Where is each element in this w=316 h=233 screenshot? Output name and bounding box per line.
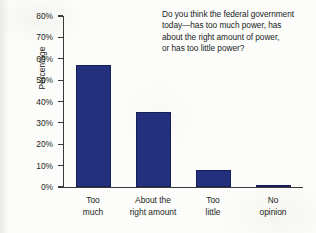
y-axis-tick-label: 70% xyxy=(5,32,53,42)
y-axis-tick: 20% xyxy=(3,139,63,149)
y-axis-tick-mark xyxy=(58,15,64,16)
y-axis-tick: 50% xyxy=(3,75,63,85)
y-axis-tick: 40% xyxy=(3,97,63,107)
y-axis-tick-label: 40% xyxy=(5,97,53,107)
category-label: About theright amount xyxy=(123,195,183,218)
bar xyxy=(136,112,171,187)
category-label-line: right amount xyxy=(123,207,183,219)
y-axis-tick-label: 60% xyxy=(5,54,53,64)
bar-chart-figure: Do you think the federal government toda… xyxy=(0,0,316,233)
category-label-line: No xyxy=(243,195,303,207)
category-label-line: Too xyxy=(63,195,123,207)
category-label: Noopinion xyxy=(243,195,303,218)
y-axis-tick: 70% xyxy=(3,32,63,42)
y-axis-tick: 80% xyxy=(3,11,63,21)
category-label: Toolittle xyxy=(183,195,243,218)
y-axis-tick-mark xyxy=(58,186,64,187)
y-axis-tick-label: 20% xyxy=(5,139,53,149)
category-label-line: little xyxy=(183,207,243,219)
y-axis-tick: 0% xyxy=(3,182,63,192)
category-label-line: Too xyxy=(183,195,243,207)
y-axis-tick-mark xyxy=(58,122,64,123)
y-axis-tick-label: 30% xyxy=(5,118,53,128)
y-axis-tick-label: 0% xyxy=(5,182,53,192)
y-axis-tick-mark xyxy=(58,37,64,38)
bar xyxy=(76,65,111,187)
plot-area: 0%10%20%30%40%50%60%70%80% ToomuchAbout … xyxy=(63,16,303,188)
category-label-line: About the xyxy=(123,195,183,207)
y-axis-line xyxy=(63,16,64,188)
bar xyxy=(196,170,231,187)
y-axis-tick: 60% xyxy=(3,54,63,64)
y-axis-tick-mark xyxy=(58,58,64,59)
y-axis-tick-label: 50% xyxy=(5,75,53,85)
y-axis-tick-mark xyxy=(58,101,64,102)
y-axis-tick-label: 80% xyxy=(5,11,53,21)
category-label-line: opinion xyxy=(243,207,303,219)
category-label: Toomuch xyxy=(63,195,123,218)
y-axis-tick-label: 10% xyxy=(5,161,53,171)
y-axis-tick-mark xyxy=(58,144,64,145)
y-axis-tick-mark xyxy=(58,165,64,166)
category-label-line: much xyxy=(63,207,123,219)
bar xyxy=(256,185,291,187)
y-axis-tick: 30% xyxy=(3,118,63,128)
y-axis-tick: 10% xyxy=(3,161,63,171)
y-axis-tick-mark xyxy=(58,80,64,81)
